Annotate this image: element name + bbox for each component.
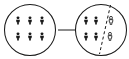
- result-group: [76, 5, 127, 56]
- group-partition-diagram: [0, 0, 129, 59]
- source-group: [5, 5, 56, 56]
- source-group-boundary-circle: [5, 5, 56, 56]
- diagram-canvas: [0, 0, 129, 59]
